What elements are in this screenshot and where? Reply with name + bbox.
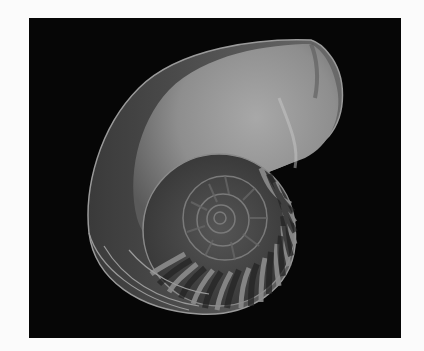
nautilus-shell-illustration [29, 18, 401, 338]
nautilus-photo [29, 18, 401, 338]
